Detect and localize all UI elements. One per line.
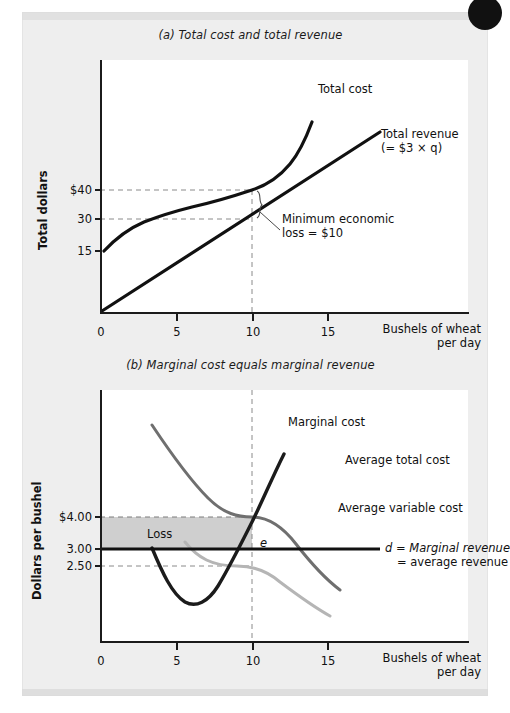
panel-b-xtick-label-0: 0	[86, 654, 116, 668]
panel-b-plot-area	[100, 390, 468, 641]
panel-a-y-axis-title: Total dollars	[36, 170, 50, 250]
average-total-cost-label: Average total cost	[345, 453, 450, 467]
page-corner-marker-icon	[468, 0, 502, 30]
panel-a-xtick-label-15: 15	[313, 325, 343, 339]
marginal-cost-label: Marginal cost	[288, 415, 365, 429]
panel-a-x-axis-title-line2: per day	[437, 336, 481, 350]
panel-b-xtick-label-10: 10	[238, 654, 268, 668]
economic-loss-leader-line	[260, 212, 280, 230]
panel-b-y-axis-title: Dollars per bushel	[30, 481, 44, 600]
total-revenue-label-line2: (= $3 × q)	[381, 141, 442, 155]
marginal-revenue-label: d = Marginal revenue = average revenue	[385, 541, 510, 569]
total-cost-curve	[104, 122, 312, 251]
panel-a-x-axis	[100, 312, 469, 314]
panel-b-title: (b) Marginal cost equals marginal revenu…	[0, 358, 501, 372]
average-variable-cost-label: Average variable cost	[338, 501, 463, 515]
total-revenue-label-line1: Total revenue	[381, 127, 459, 141]
panel-a-ytick-mark-15	[95, 250, 102, 252]
panel-b-x-axis	[100, 641, 469, 643]
marginal-revenue-label-line2: = average revenue	[397, 555, 508, 569]
panel-a-xtick-label-10: 10	[238, 325, 268, 339]
panel-a-y-axis	[100, 60, 102, 314]
panel-b-xtick-label-15: 15	[313, 654, 343, 668]
panel-b-ytick-mark-250	[95, 565, 102, 567]
total-revenue-label: Total revenue (= $3 × q)	[381, 127, 459, 155]
panel-b-xtick-label-5: 5	[162, 654, 192, 668]
loss-area-label: Loss	[147, 527, 172, 541]
panel-a-svg	[100, 60, 468, 312]
panel-a-plot-area	[100, 60, 468, 312]
panel-b-xtick-mark-15	[327, 643, 329, 650]
loss-area-rect	[100, 517, 252, 549]
average-variable-cost-curve	[185, 542, 330, 616]
panel-a-xtick-mark-10	[252, 314, 254, 321]
minimum-economic-loss-note: Minimum economic loss = $10	[282, 212, 394, 240]
panel-a-ytick-mark-30	[95, 218, 102, 220]
panel-a-xtick-label-0: 0	[86, 325, 116, 339]
panel-b-x-axis-title: Bushels of wheat per day	[371, 651, 481, 679]
minimum-economic-loss-note-line1: Minimum economic	[282, 212, 394, 226]
panel-a-xtick-mark-5	[176, 314, 178, 321]
panel-b-xtick-mark-5	[176, 643, 178, 650]
panel-b-xtick-mark-10	[252, 643, 254, 650]
equilibrium-point-label: e	[260, 536, 267, 550]
panel-b-svg	[100, 390, 468, 641]
panel-a-ytick-mark-40	[95, 189, 102, 191]
panel-a-x-axis-title: Bushels of wheat per day	[371, 322, 481, 350]
marginal-revenue-label-line1: d = Marginal revenue	[385, 541, 510, 555]
panel-a-xtick-mark-15	[327, 314, 329, 321]
panel-a-xtick-label-5: 5	[162, 325, 192, 339]
panel-b-x-axis-title-line2: per day	[437, 665, 481, 679]
minimum-economic-loss-note-line2: loss = $10	[282, 226, 343, 240]
economic-loss-brace	[257, 191, 262, 218]
panel-b-ytick-mark-400	[95, 516, 102, 518]
panel-b-ytick-mark-300	[95, 548, 102, 550]
panel-b-x-axis-title-line1: Bushels of wheat	[383, 651, 481, 665]
panel-a-title: (a) Total cost and total revenue	[0, 28, 501, 42]
total-cost-label: Total cost	[318, 82, 372, 96]
panel-a-x-axis-title-line1: Bushels of wheat	[383, 322, 481, 336]
